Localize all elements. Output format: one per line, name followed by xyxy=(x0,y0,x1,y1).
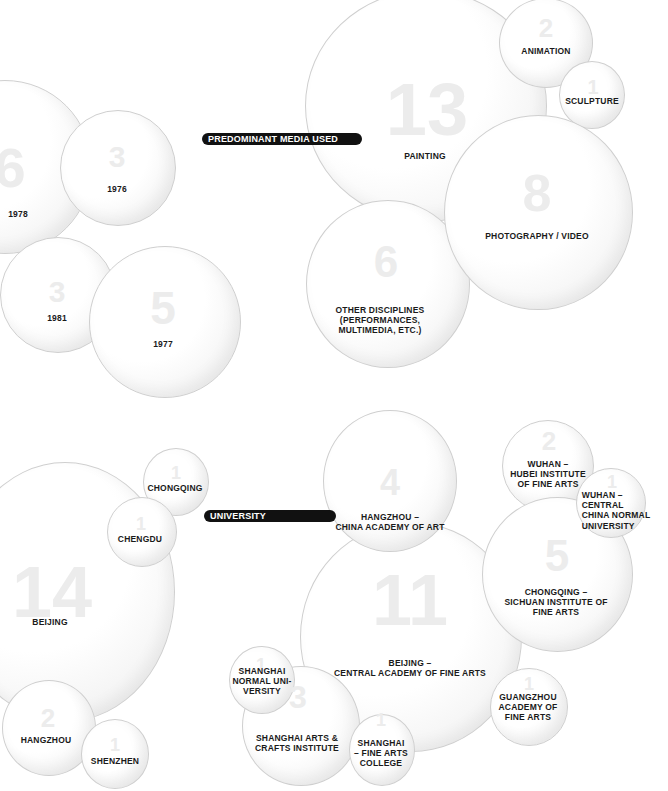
label-beijing-cafa: BEIJING – CENTRAL ACADEMY OF FINE ARTS xyxy=(334,658,486,678)
value-wuhan-hubei: 2 xyxy=(542,428,556,454)
university-bubble-chart: UNIVERSITY 4 HANGZHOU – CHINA ACADEMY OF… xyxy=(0,0,668,791)
label-shanghai-normal: SHANGHAI NORMAL UNI- VERSITY xyxy=(232,666,291,697)
label-shanghai-fac: SHANGHAI – FINE ARTS COLLEGE xyxy=(354,738,408,769)
value-chongqing-sichuan: 5 xyxy=(545,534,569,578)
tag-university: UNIVERSITY xyxy=(204,510,336,522)
label-hangzhou-caa: HANGZHOU – CHINA ACADEMY OF ART xyxy=(335,512,444,532)
value-wuhan-central: 1 xyxy=(607,473,617,491)
tag-university-text: UNIVERSITY xyxy=(210,511,266,521)
label-chongqing-sichuan: CHONGQING – SICHUAN INSTITUTE OF FINE AR… xyxy=(504,587,607,618)
value-shanghai-crafts: 3 xyxy=(289,681,307,713)
value-beijing-cafa: 11 xyxy=(372,564,448,636)
value-hangzhou-caa: 4 xyxy=(380,465,400,501)
label-shanghai-crafts: SHANGHAI ARTS & CRAFTS INSTITUTE xyxy=(255,733,339,753)
label-wuhan-hubei: WUHAN – HUBEI INSTITUTE OF FINE ARTS xyxy=(510,459,586,490)
label-wuhan-central: WUHAN – CENTRAL CHINA NORMAL UNIVERSITY xyxy=(582,490,651,531)
value-shanghai-fac: 1 xyxy=(376,711,386,729)
value-guangzhou: 1 xyxy=(524,675,534,693)
label-guangzhou: GUANGZHOU ACADEMY OF FINE ARTS xyxy=(499,692,558,723)
